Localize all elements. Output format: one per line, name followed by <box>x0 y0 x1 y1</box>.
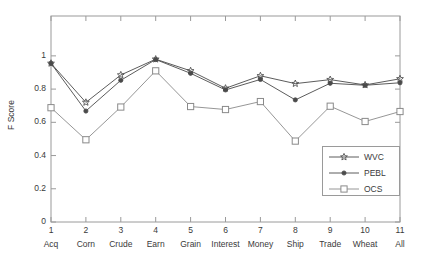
y-tick-label: 0.8 <box>20 83 46 93</box>
x-tick-number: 1 <box>36 225 66 235</box>
data-point-pebl-8 <box>293 98 297 102</box>
legend-marker-ocs <box>341 186 347 192</box>
data-point-pebl-4 <box>154 57 158 61</box>
x-tick-number: 9 <box>315 225 345 235</box>
data-point-pebl-3 <box>119 78 123 82</box>
legend-label-ocs: OCS <box>364 184 382 194</box>
y-tick-label: 0.2 <box>20 183 46 193</box>
data-point-ocs-1 <box>48 105 54 111</box>
series-markers-ocs <box>48 68 403 144</box>
legend-label-pebl: PEBL <box>364 168 386 178</box>
y-axis-title: F Score <box>6 90 16 140</box>
legend[interactable]: WVC PEBL OCS <box>322 146 400 196</box>
chart-figure: F Score 00.20.40.60.81 1234567891011 Acq… <box>0 0 421 261</box>
x-tick-number: 2 <box>71 225 101 235</box>
data-point-ocs-3 <box>118 104 124 110</box>
x-tick-number: 5 <box>176 225 206 235</box>
x-category-label: All <box>376 239 421 249</box>
data-point-pebl-10 <box>363 83 367 87</box>
data-point-pebl-9 <box>328 81 332 85</box>
plot-area <box>0 0 421 261</box>
x-tick-number: 7 <box>245 225 275 235</box>
data-point-ocs-11 <box>397 108 403 114</box>
y-tick-label: 1 <box>20 50 46 60</box>
data-point-ocs-9 <box>327 103 333 109</box>
x-tick-number: 8 <box>280 225 310 235</box>
data-point-pebl-6 <box>223 88 227 92</box>
data-point-pebl-2 <box>84 109 88 113</box>
data-point-pebl-5 <box>189 71 193 75</box>
x-tick-number: 11 <box>385 225 415 235</box>
data-point-ocs-5 <box>188 103 194 109</box>
legend-sample-lines <box>323 147 401 197</box>
data-point-pebl-11 <box>398 81 402 85</box>
y-tick-marks <box>51 56 400 222</box>
data-point-ocs-4 <box>153 68 159 74</box>
x-tick-number: 6 <box>211 225 241 235</box>
data-point-ocs-7 <box>257 98 263 104</box>
data-point-ocs-10 <box>362 118 368 124</box>
data-point-pebl-1 <box>49 61 53 65</box>
y-tick-label: 0.4 <box>20 150 46 160</box>
x-tick-number: 10 <box>350 225 380 235</box>
y-tick-label: 0.6 <box>20 116 46 126</box>
x-tick-number: 4 <box>141 225 171 235</box>
data-point-ocs-8 <box>292 138 298 144</box>
legend-marker-pebl <box>342 171 346 175</box>
legend-label-wvc: WVC <box>364 152 384 162</box>
data-point-pebl-7 <box>258 77 262 81</box>
data-point-ocs-2 <box>83 137 89 143</box>
data-series-group <box>48 56 404 145</box>
data-point-ocs-6 <box>222 106 228 112</box>
x-tick-number: 3 <box>106 225 136 235</box>
